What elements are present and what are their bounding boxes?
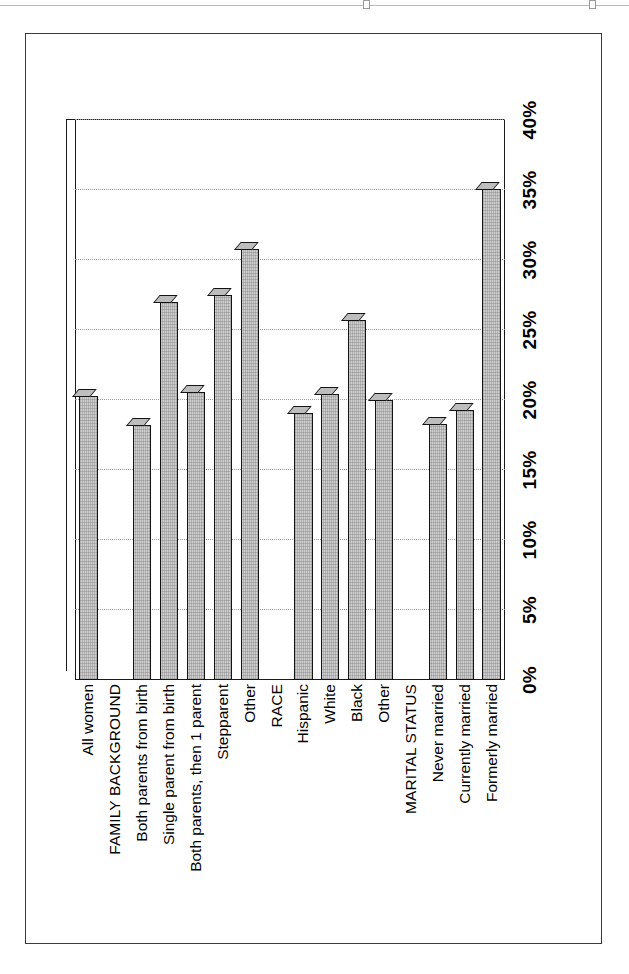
bar: [348, 320, 366, 680]
category-axis-labels: All womenFAMILY BACKGROUNDBoth parents f…: [65, 684, 505, 916]
bar: [160, 302, 178, 680]
category-label: Hispanic: [295, 684, 310, 743]
category-label: Other: [376, 684, 391, 723]
category-group-header: FAMILY BACKGROUND: [107, 684, 122, 855]
value-axis-tick-label: 30%: [519, 241, 541, 280]
category-label: Black: [349, 684, 364, 722]
value-axis-tick-label: 20%: [519, 381, 541, 420]
gridline: [75, 399, 505, 400]
category-group-header: RACE: [269, 684, 284, 727]
value-axis-tick-label: 15%: [519, 451, 541, 490]
bar: [321, 394, 339, 680]
category-label: White: [322, 684, 337, 724]
category-label: Never married: [430, 684, 445, 782]
category-group-header: MARITAL STATUS: [403, 684, 418, 814]
category-label: Stepparent: [215, 684, 230, 760]
category-label: Formerly married: [484, 684, 499, 802]
value-axis-tick-label: 5%: [519, 596, 541, 624]
value-axis-tick-label: 0%: [519, 666, 541, 694]
chart-plot-container: All womenFAMILY BACKGROUNDBoth parents f…: [65, 56, 565, 916]
gridline: [75, 259, 505, 260]
scanned-page: All womenFAMILY BACKGROUNDBoth parents f…: [0, 0, 629, 974]
bar: [429, 424, 447, 680]
category-label: Both parents from birth: [134, 684, 149, 842]
bar-chart: All womenFAMILY BACKGROUNDBoth parents f…: [65, 56, 565, 916]
gridline: [75, 329, 505, 330]
value-axis-tick-label: 40%: [519, 101, 541, 140]
bar: [133, 425, 151, 680]
value-axis-tick-label: 10%: [519, 521, 541, 560]
category-label: Currently married: [457, 684, 472, 804]
chart-rotation-host: All womenFAMILY BACKGROUNDBoth parents f…: [0, 0, 629, 974]
gridline: [75, 189, 505, 190]
value-axis-tick-label: 25%: [519, 311, 541, 350]
category-label: All women: [80, 684, 95, 756]
category-label: Both parents, then 1 parent: [188, 684, 203, 872]
category-label: Other: [242, 684, 257, 723]
bar: [214, 295, 232, 680]
bar: [241, 249, 259, 680]
plot-area: 0%5%10%15%20%25%30%35%40%: [75, 120, 505, 680]
gridline: [75, 119, 505, 120]
value-axis-tick-label: 35%: [519, 171, 541, 210]
bar: [294, 413, 312, 680]
bar: [79, 396, 97, 680]
bar: [187, 392, 205, 680]
bar: [375, 400, 393, 680]
plot-depth-top-edge: [66, 120, 75, 680]
category-label: Single parent from birth: [161, 684, 176, 845]
bar: [456, 410, 474, 680]
bar: [482, 189, 500, 680]
